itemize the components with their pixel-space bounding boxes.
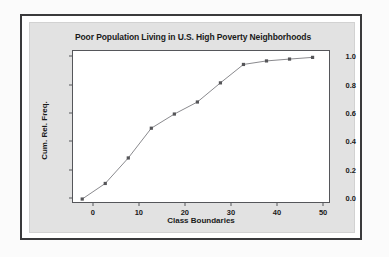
- chart-title: Poor Population Living in U.S. High Pove…: [30, 32, 356, 42]
- page-background: Poor Population Living in U.S. High Pove…: [0, 0, 389, 257]
- data-point: [311, 56, 314, 59]
- data-point: [104, 182, 107, 185]
- series-line: [82, 57, 312, 199]
- data-point: [127, 156, 130, 159]
- figure-frame: Poor Population Living in U.S. High Pove…: [20, 14, 362, 240]
- chart-panel: Poor Population Living in U.S. High Pove…: [29, 22, 355, 233]
- x-axis-title: Class Boundaries: [72, 216, 330, 225]
- y-axis-title: Cum. Rel. Freq.: [40, 88, 49, 174]
- data-point: [196, 100, 199, 103]
- data-point: [81, 197, 84, 200]
- plot-area: [72, 50, 330, 203]
- data-point: [150, 127, 153, 130]
- data-point: [265, 59, 268, 62]
- ogive-line-series: [73, 51, 331, 204]
- data-point: [288, 57, 291, 60]
- data-point: [173, 112, 176, 115]
- data-point: [242, 63, 245, 66]
- data-point: [219, 81, 222, 84]
- series-markers: [81, 56, 315, 201]
